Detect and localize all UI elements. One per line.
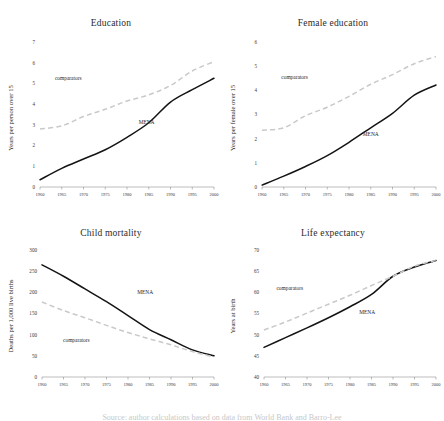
- y-axis-label: Years per female over 15: [229, 84, 236, 151]
- y-axis-label: Years at birth: [229, 298, 236, 334]
- comparators-series-line: [264, 261, 436, 330]
- y-tick-label: 2: [32, 142, 35, 148]
- chart-grid: Education Years per person over 15012345…: [0, 0, 444, 396]
- y-tick-label: 50: [254, 332, 260, 338]
- x-tick-label: 1980: [124, 382, 134, 387]
- comparators-series-label: comparators: [281, 74, 308, 80]
- x-tick-label: 1980: [346, 382, 356, 387]
- x-tick-label: 1990: [389, 382, 399, 387]
- x-tick-label: 1975: [101, 192, 111, 197]
- chart-education: Years per person over 150123456719601965…: [0, 30, 222, 226]
- y-tick-label: 6: [254, 39, 257, 45]
- x-tick-label: 1985: [145, 382, 155, 387]
- mena-series-label: MENA: [137, 289, 153, 295]
- x-tick-label: 1965: [281, 382, 291, 387]
- y-tick-label: 6: [32, 60, 35, 66]
- y-tick-label: 70: [254, 247, 260, 253]
- comparators-series-label: comparators: [63, 337, 90, 343]
- x-tick-label: 1990: [167, 382, 177, 387]
- x-tick-label: 1980: [123, 192, 133, 197]
- panel-female-education: Female education Years per female over 1…: [222, 0, 444, 210]
- chart-life-expectancy: Years at birth40455055606570196019651970…: [222, 240, 444, 412]
- x-tick-label: 2000: [432, 192, 442, 197]
- y-tick-label: 45: [254, 353, 260, 359]
- y-tick-label: 5: [32, 80, 35, 86]
- x-tick-label: 1980: [345, 192, 355, 197]
- y-axis-label: Deaths per 1,000 live births: [7, 279, 14, 352]
- y-tick-label: 7: [32, 39, 35, 45]
- y-tick-label: 300: [29, 247, 37, 253]
- comparators-series-line: [40, 62, 214, 129]
- y-tick-label: 3: [32, 122, 35, 128]
- y-axis-label: Years per person over 15: [7, 84, 14, 150]
- x-tick-label: 1985: [367, 382, 377, 387]
- x-tick-label: 1970: [301, 192, 311, 197]
- chart-child-mortality: Deaths per 1,000 live births050100150200…: [0, 240, 222, 412]
- x-tick-label: 1970: [79, 192, 89, 197]
- x-tick-label: 1960: [38, 382, 48, 387]
- y-tick-label: 250: [29, 268, 37, 274]
- panel-life-expectancy: Life expectancy Years at birth4045505560…: [222, 210, 444, 396]
- x-tick-label: 1970: [81, 382, 91, 387]
- y-tick-label: 55: [254, 310, 260, 316]
- mena-series-label: MENA: [139, 119, 155, 125]
- x-tick-label: 1985: [366, 192, 376, 197]
- x-tick-label: 2000: [210, 192, 220, 197]
- x-tick-label: 1995: [188, 192, 198, 197]
- x-tick-label: 2000: [432, 382, 442, 387]
- x-tick-label: 1995: [410, 382, 420, 387]
- mena-series-label: MENA: [363, 131, 379, 137]
- y-tick-label: 100: [29, 332, 37, 338]
- x-tick-label: 1985: [144, 192, 154, 197]
- y-tick-label: 150: [29, 310, 37, 316]
- panel-title-female-education: Female education: [222, 0, 444, 30]
- y-tick-label: 3: [254, 111, 257, 117]
- panel-title-child-mortality: Child mortality: [0, 210, 222, 240]
- x-tick-label: 1965: [57, 192, 67, 197]
- y-tick-label: 200: [29, 289, 37, 295]
- mena-series-line: [264, 261, 436, 348]
- panel-education: Education Years per person over 15012345…: [0, 0, 222, 210]
- y-tick-label: 50: [32, 353, 38, 359]
- figure-caption: Source: author calculations based on dat…: [0, 412, 444, 421]
- comparators-series-label: comparators: [55, 75, 82, 81]
- panel-child-mortality: Child mortality Deaths per 1,000 live bi…: [0, 210, 222, 396]
- mena-series-line: [40, 78, 214, 180]
- x-tick-label: 1995: [410, 192, 420, 197]
- y-tick-label: 5: [254, 63, 257, 69]
- x-tick-label: 1975: [102, 382, 112, 387]
- y-tick-label: 4: [254, 87, 257, 93]
- comparators-series-label: comparators: [276, 285, 303, 291]
- x-tick-label: 1975: [323, 192, 333, 197]
- x-tick-label: 1965: [59, 382, 69, 387]
- x-tick-label: 2000: [210, 382, 220, 387]
- y-tick-label: 2: [254, 136, 257, 142]
- mena-series-label: MENA: [359, 309, 375, 315]
- x-tick-label: 1970: [303, 382, 313, 387]
- x-tick-label: 1960: [258, 192, 268, 197]
- y-tick-label: 0: [34, 374, 37, 380]
- x-tick-label: 1990: [388, 192, 398, 197]
- x-tick-label: 1960: [36, 192, 46, 197]
- x-tick-label: 1995: [188, 382, 198, 387]
- comparators-series-line: [262, 57, 436, 131]
- y-tick-label: 65: [254, 268, 260, 274]
- figure-panel-grid: Education Years per person over 15012345…: [0, 0, 444, 421]
- y-tick-label: 0: [254, 184, 257, 190]
- panel-title-life-expectancy: Life expectancy: [222, 210, 444, 240]
- y-tick-label: 4: [32, 101, 35, 107]
- chart-female-education: Years per female over 150123456196019651…: [222, 30, 444, 226]
- mena-series-line: [262, 85, 436, 185]
- y-tick-label: 40: [254, 374, 260, 380]
- y-tick-label: 1: [254, 160, 257, 166]
- y-tick-label: 1: [32, 163, 35, 169]
- x-tick-label: 1975: [324, 382, 334, 387]
- y-tick-label: 60: [254, 289, 260, 295]
- y-tick-label: 0: [32, 184, 35, 190]
- x-tick-label: 1965: [279, 192, 289, 197]
- x-tick-label: 1960: [260, 382, 270, 387]
- panel-title-education: Education: [0, 0, 222, 30]
- x-tick-label: 1990: [166, 192, 176, 197]
